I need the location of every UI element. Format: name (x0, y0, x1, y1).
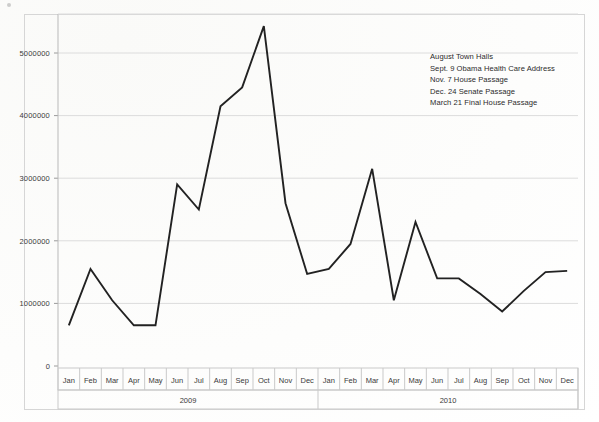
x-group-label-year: 2010 (440, 396, 457, 405)
x-tick-label-month: Feb (344, 376, 357, 385)
x-tick-label-month: Dec (300, 376, 314, 385)
x-tick-label-month: Nov (279, 376, 293, 385)
y-axis-labels: 010000002000000300000040000005000000 (19, 49, 50, 371)
y-tick-label: 3000000 (19, 174, 50, 183)
y-axis-ticks (54, 53, 58, 366)
x-tick-label-month: Jun (171, 376, 183, 385)
x-tick-label-month: Sep (235, 376, 248, 385)
annotation-line-2: Sept. 9 Obama Health Care Address (430, 63, 582, 75)
x-tick-label-month: May (148, 376, 162, 385)
y-tick-label: 4000000 (19, 111, 50, 120)
x-tick-label-month: Jun (431, 376, 443, 385)
y-tick-label: 2000000 (19, 237, 50, 246)
x-tick-label-month: Apr (128, 376, 140, 385)
annotation-line-1: August Town Halls (430, 51, 582, 63)
x-tick-label-month: Aug (214, 376, 227, 385)
x-tick-label-month: Mar (366, 376, 379, 385)
x-tick-label-month: Sep (495, 376, 508, 385)
x-tick-label-month: Feb (84, 376, 97, 385)
annotation-text-block: August Town Halls Sept. 9 Obama Health C… (430, 51, 582, 109)
x-tick-label-month: Oct (518, 376, 531, 385)
annotation-line-4: Dec. 24 Senate Passage (430, 86, 582, 98)
x-tick-label-month: Nov (539, 376, 553, 385)
x-tick-label-month: Jan (323, 376, 335, 385)
x-tick-label-month: Dec (560, 376, 574, 385)
x-tick-label-month: Oct (258, 376, 271, 385)
x-tick-label-month: Jul (454, 376, 464, 385)
x-tick-label-month: Aug (474, 376, 487, 385)
x-tick-label-month: May (408, 376, 422, 385)
y-tick-label: 5000000 (19, 49, 50, 58)
x-tick-label-month: Jan (63, 376, 75, 385)
x-tick-label-month: Apr (388, 376, 400, 385)
x-tick-label-month: Mar (106, 376, 119, 385)
annotation-line-3: Nov. 7 House Passage (430, 74, 582, 86)
x-group-label-year: 2009 (180, 396, 197, 405)
annotation-line-5: March 21 Final House Passage (430, 97, 582, 109)
x-tick-label-month: Jul (194, 376, 204, 385)
y-tick-label: 0 (46, 362, 50, 371)
x-axis-year-cells (58, 390, 578, 409)
y-tick-label: 1000000 (19, 299, 50, 308)
